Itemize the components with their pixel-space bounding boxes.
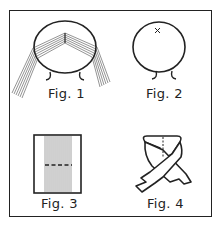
fig2-illustration (133, 22, 185, 79)
caption-fig3: Fig. 3 (41, 196, 78, 211)
fig3-strands (45, 136, 71, 192)
caption-fig1: Fig. 1 (48, 86, 85, 101)
diagram-canvas (0, 0, 221, 227)
start-mark-x-icon (155, 28, 160, 33)
fig4-illustration (136, 136, 191, 192)
fig3-illustration (34, 135, 81, 193)
caption-fig2: Fig. 2 (146, 86, 183, 101)
caption-fig4: Fig. 4 (147, 196, 184, 211)
